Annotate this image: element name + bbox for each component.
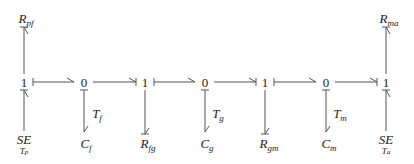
- junction-1-c: 1: [262, 76, 269, 89]
- element-r-gm: Rgm: [260, 137, 279, 150]
- bond-sep-j1: [20, 90, 28, 131]
- element-c-m: Cm: [321, 137, 336, 150]
- element-r-fg: Rfg: [141, 137, 156, 150]
- bond-j5-j6: [274, 78, 316, 86]
- element-se-ta: SE Ta: [379, 133, 393, 156]
- bond-j7-rma: [382, 27, 390, 74]
- bond-j2-cf: [80, 90, 88, 132]
- element-r-pf: Rpf: [19, 12, 34, 25]
- bond-graph-diagram: 1 0 1 0 1 0 1 Rpf Rma SE Tp Cf Rfg Cg Rg…: [0, 0, 414, 164]
- bond-j4-j5: [214, 78, 256, 86]
- element-c-g: Cg: [200, 137, 213, 150]
- junction-1-a: 1: [21, 76, 28, 89]
- bond-j6-j7: [335, 78, 377, 86]
- bond-label-t-g: Tg: [212, 107, 224, 120]
- bond-j6-cm: [322, 90, 330, 132]
- element-c-f: Cf: [80, 137, 91, 150]
- bond-j2-j3: [93, 78, 136, 86]
- bond-j1-rpf: [20, 27, 28, 74]
- bond-label-t-m: Tm: [333, 107, 347, 120]
- bond-j3-j4: [154, 78, 195, 86]
- bond-sea-j7: [382, 90, 390, 131]
- bond-j3-rfg: [141, 90, 149, 134]
- bond-j4-cg: [201, 90, 209, 132]
- bond-j5-rgm: [261, 90, 269, 134]
- element-r-ma: Rma: [380, 12, 399, 25]
- junction-0-a: 0: [81, 76, 88, 89]
- bond-j1-j2: [33, 78, 74, 86]
- junction-0-c: 0: [323, 76, 330, 89]
- junction-1-d: 1: [383, 76, 390, 89]
- bond-label-t-f: Tf: [92, 107, 102, 120]
- element-se-tp: SE Tp: [17, 133, 31, 156]
- junction-1-b: 1: [142, 76, 149, 89]
- junction-0-b: 0: [202, 76, 209, 89]
